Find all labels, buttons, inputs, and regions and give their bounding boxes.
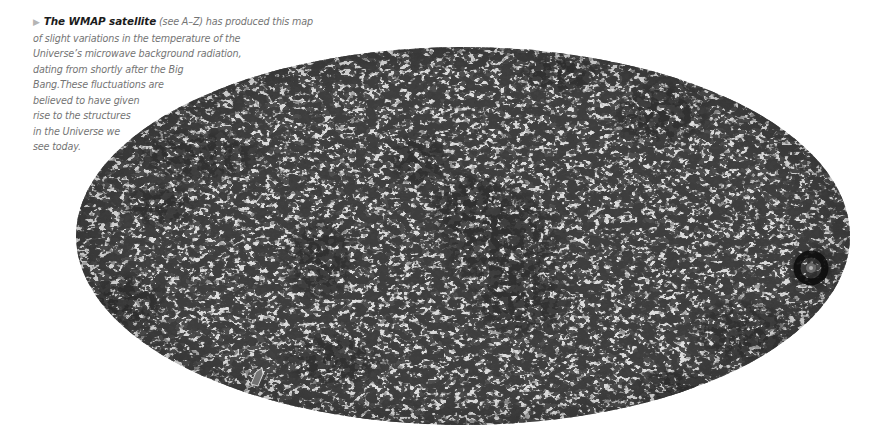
- bullet-arrow-icon: ▶: [33, 15, 40, 31]
- caption-line-1: ▶The WMAP satellite (see A–Z) has produc…: [33, 14, 323, 31]
- caption-line-6: believed to have given: [33, 93, 323, 109]
- caption-text: (see A–Z) has produced this map: [156, 16, 313, 27]
- caption-line-7: rise to the structures: [33, 108, 323, 124]
- caption-line-8: in the Universe we: [33, 124, 323, 140]
- figure-caption: ▶The WMAP satellite (see A–Z) has produc…: [33, 14, 323, 155]
- caption-line-9: see today.: [33, 139, 323, 155]
- caption-title: The WMAP satellite: [44, 15, 156, 27]
- caption-line-2: of slight variations in the temperature …: [33, 31, 323, 47]
- caption-line-4: dating from shortly after the Big: [33, 62, 323, 78]
- caption-line-5: Bang.These fluctuations are: [33, 77, 323, 93]
- caption-line-3: Universe’s microwave background radiatio…: [33, 46, 323, 62]
